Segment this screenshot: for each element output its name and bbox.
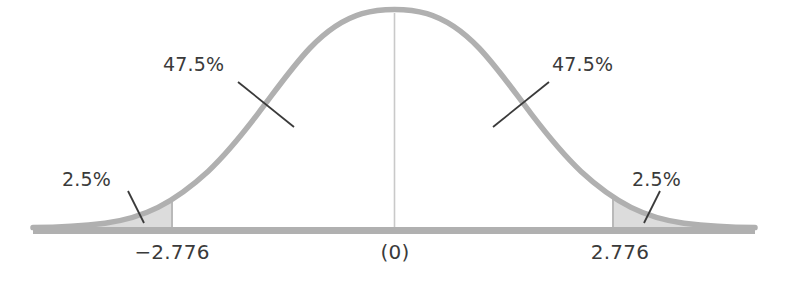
axis-tick-label-negative-critical: −2.776 bbox=[105, 240, 239, 264]
right-tail-percentage-label: 2.5% bbox=[632, 168, 681, 190]
normal-distribution-figure: 2.5% 2.5% 47.5% 47.5% −2.776 (0) 2.776 bbox=[0, 0, 793, 286]
left-body-leader-line bbox=[238, 82, 294, 127]
axis-tick-label-positive-critical: 2.776 bbox=[562, 240, 678, 264]
left-body-percentage-label: 47.5% bbox=[163, 53, 224, 75]
axis-tick-label-mean: (0) bbox=[355, 240, 435, 264]
left-tail-percentage-label: 2.5% bbox=[62, 168, 111, 190]
right-body-leader-line bbox=[493, 82, 549, 127]
right-body-percentage-label: 47.5% bbox=[552, 53, 613, 75]
